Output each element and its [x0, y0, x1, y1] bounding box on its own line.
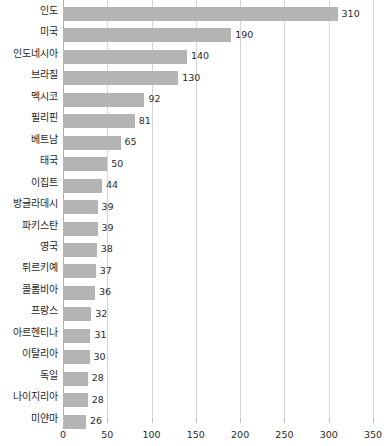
- bar-value-label: 81: [139, 114, 151, 128]
- category-label: 방글라데시: [0, 197, 58, 211]
- bar-value-label: 44: [106, 178, 118, 192]
- category-label: 태국: [0, 154, 58, 168]
- x-tick-label: 300: [320, 429, 338, 440]
- bar-row: 32: [63, 304, 392, 325]
- bar-row: 140: [63, 46, 392, 67]
- x-tick-label: 150: [187, 429, 205, 440]
- category-label: 아르헨티나: [0, 326, 58, 340]
- bar-row: 39: [63, 218, 392, 239]
- bar: [63, 222, 98, 236]
- x-tick-mark: [196, 418, 197, 423]
- category-label: 브라질: [0, 68, 58, 82]
- bar-row: 92: [63, 89, 392, 110]
- category-label: 미국: [0, 25, 58, 39]
- bar-row: 65: [63, 132, 392, 153]
- value-axis: 050100150200250300350: [63, 423, 373, 446]
- category-axis: 인도미국인도네시아브라질멕시코필리핀베트남태국이집트방글라데시파키스탄영국튀르키…: [0, 0, 58, 423]
- category-label: 멕시코: [0, 90, 58, 104]
- category-label: 튀르키예: [0, 261, 58, 275]
- x-tick-label: 350: [364, 429, 382, 440]
- category-label: 독일: [0, 369, 58, 383]
- plot-area: 3101901401309281655044393938373632313028…: [63, 0, 373, 423]
- bar-row: 190: [63, 25, 392, 46]
- category-label: 미얀마: [0, 412, 58, 426]
- bar-value-label: 140: [191, 49, 209, 63]
- bar: [63, 179, 102, 193]
- x-tick-mark: [284, 418, 285, 423]
- category-label: 인도: [0, 4, 58, 18]
- bar: [63, 329, 90, 343]
- bar: [63, 350, 90, 364]
- bar-row: 36: [63, 282, 392, 303]
- x-tick-label: 100: [142, 429, 160, 440]
- bar-row: 28: [63, 368, 392, 389]
- bar: [63, 200, 98, 214]
- bar-value-label: 28: [92, 393, 104, 407]
- bar-row: 39: [63, 197, 392, 218]
- bar: [63, 93, 144, 107]
- bar: [63, 114, 135, 128]
- bar: [63, 136, 121, 150]
- bar-value-label: 310: [342, 7, 360, 21]
- bar-value-label: 36: [99, 285, 111, 299]
- x-tick-label: 250: [275, 429, 293, 440]
- bar-row: 28: [63, 390, 392, 411]
- x-tick-mark: [240, 418, 241, 423]
- bar-value-label: 37: [100, 264, 112, 278]
- x-tick-mark: [107, 418, 108, 423]
- x-tick-mark: [152, 418, 153, 423]
- category-label: 영국: [0, 240, 58, 254]
- bar-row: 38: [63, 239, 392, 260]
- bar-value-label: 92: [148, 92, 160, 106]
- bar: [63, 157, 107, 171]
- bar-row: 81: [63, 111, 392, 132]
- bar-value-label: 190: [235, 28, 253, 42]
- bar: [63, 286, 95, 300]
- category-label: 이집트: [0, 176, 58, 190]
- category-label: 이탈리아: [0, 347, 58, 361]
- bar-row: 50: [63, 154, 392, 175]
- bar: [63, 243, 97, 257]
- bar-value-label: 39: [102, 200, 114, 214]
- bar-value-label: 50: [111, 157, 123, 171]
- bar-value-label: 32: [95, 307, 107, 321]
- x-tick-mark: [329, 418, 330, 423]
- bar-row: 31: [63, 325, 392, 346]
- bar-value-label: 38: [101, 242, 113, 256]
- category-label: 프랑스: [0, 304, 58, 318]
- bar-value-label: 39: [102, 221, 114, 235]
- bar-value-label: 30: [94, 350, 106, 364]
- x-tick-label: 0: [60, 429, 66, 440]
- category-label: 베트남: [0, 133, 58, 147]
- x-tick-mark: [373, 418, 374, 423]
- bar: [63, 393, 88, 407]
- bar-row: 37: [63, 261, 392, 282]
- x-tick-mark: [63, 418, 64, 423]
- bar-series: 3101901401309281655044393938373632313028…: [63, 0, 373, 423]
- bar-row: 44: [63, 175, 392, 196]
- bar-value-label: 28: [92, 371, 104, 385]
- category-label: 파키스탄: [0, 219, 58, 233]
- category-label: 나이지리아: [0, 390, 58, 404]
- category-label: 인도네시아: [0, 47, 58, 61]
- bar: [63, 28, 231, 42]
- bar: [63, 71, 178, 85]
- bar-row: 30: [63, 347, 392, 368]
- bar: [63, 372, 88, 386]
- bar-row: 310: [63, 4, 392, 25]
- bar-value-label: 130: [182, 71, 200, 85]
- category-label: 필리핀: [0, 111, 58, 125]
- bar: [63, 7, 338, 21]
- bar: [63, 307, 91, 321]
- bar: [63, 50, 187, 64]
- bar: [63, 264, 96, 278]
- category-label: 콜롬비아: [0, 283, 58, 297]
- bar-row: 130: [63, 68, 392, 89]
- bar-value-label: 31: [94, 328, 106, 342]
- bar-chart: 인도미국인도네시아브라질멕시코필리핀베트남태국이집트방글라데시파키스탄영국튀르키…: [0, 0, 392, 446]
- x-tick-label: 200: [231, 429, 249, 440]
- bar-value-label: 65: [125, 135, 137, 149]
- x-tick-label: 50: [101, 429, 113, 440]
